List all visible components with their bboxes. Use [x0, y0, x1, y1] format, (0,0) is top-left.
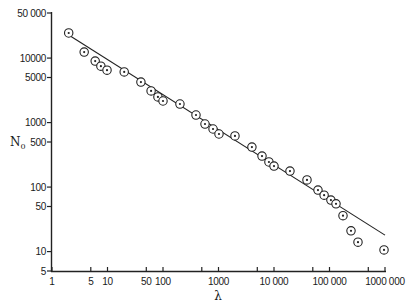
y-tick-label: 500 [30, 137, 47, 148]
x-tick-label: 100 000 [312, 276, 347, 287]
data-point [192, 111, 200, 119]
data-point [380, 246, 388, 254]
y-tick-label: 5000 [25, 72, 47, 83]
x-axis-label: λ [214, 289, 222, 303]
axes [51, 12, 386, 272]
x-tick-label: 1000 [208, 276, 230, 287]
data-point [65, 29, 73, 37]
x-tick-label: 100 [155, 276, 172, 287]
y-tick-label: 1000 [25, 117, 47, 128]
data-point [354, 238, 362, 246]
y-tick-label: 50 000 [17, 8, 47, 19]
scatter-chart: 51050100500100050001000050 000 151050100… [0, 0, 414, 307]
data-point [303, 176, 311, 184]
x-tick-label: 10 000 [260, 276, 290, 287]
y-tick-label: 10 [35, 246, 46, 257]
y-tick-label: 100 [30, 182, 47, 193]
data-point [231, 132, 239, 140]
y-tick-label: 10000 [20, 53, 47, 64]
data-point [332, 200, 340, 208]
y-axis-label-main: N [10, 135, 21, 149]
data-point [80, 48, 88, 56]
data-point [120, 68, 128, 76]
data-point [339, 212, 347, 220]
data-point [258, 152, 266, 160]
data-point [137, 78, 145, 86]
y-tick-label: 50 [35, 201, 46, 212]
data-point [176, 100, 184, 108]
data-point [159, 97, 167, 105]
data-point [215, 130, 223, 138]
data-point [270, 162, 278, 170]
x-tick-label: 5 [88, 276, 94, 287]
y-tick-label: 5 [41, 266, 47, 277]
y-axis-label-subscript: 0 [21, 142, 26, 151]
x-tick-label: 1000 000 [365, 276, 405, 287]
data-point [286, 167, 294, 175]
data-point [347, 227, 355, 235]
data-point [201, 120, 209, 128]
x-tick-label: 1 [49, 276, 55, 287]
data-point [248, 143, 256, 151]
y-axis-label: N0 [10, 135, 26, 151]
data-point [103, 66, 111, 74]
data-point [147, 87, 155, 95]
x-tick-label: 50 [141, 276, 152, 287]
x-ticks: 151050100100010 000100 0001000 000 [49, 267, 405, 287]
x-tick-label: 10 [102, 276, 113, 287]
